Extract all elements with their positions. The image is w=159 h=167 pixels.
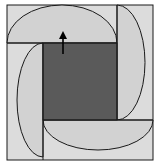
pinwheel-diagram [0, 0, 159, 167]
inner-square [43, 43, 117, 120]
